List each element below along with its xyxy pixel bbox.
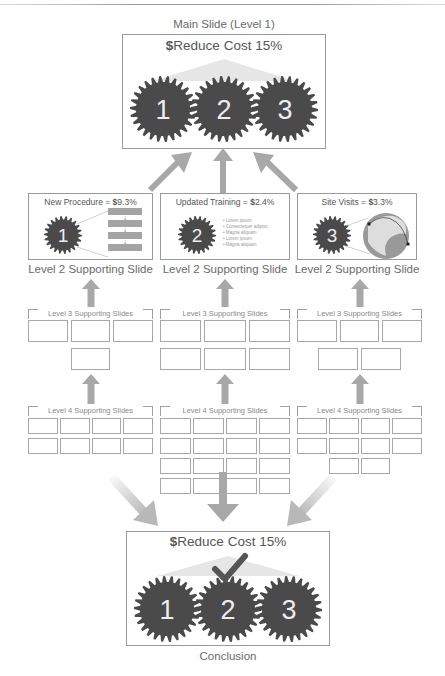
level3-slide-thumb[interactable] [249, 348, 290, 370]
top-rule [0, 4, 445, 5]
level4-slide-thumb[interactable] [92, 438, 122, 454]
level3-slide-thumb[interactable] [204, 320, 245, 342]
gear-icon-2: 2 [191, 76, 257, 142]
process-flow-icon: 1↓↓↓ [29, 194, 154, 259]
svg-text:1: 1 [155, 95, 170, 125]
level4-slide-thumb[interactable] [123, 418, 153, 434]
level2-caption: Level 2 Supporting Slide [155, 263, 295, 275]
level4-slide-thumb[interactable] [160, 418, 191, 434]
level4-slide-thumb[interactable] [193, 418, 224, 434]
arrows-to-main [0, 145, 445, 195]
up-arrow-icon [215, 279, 235, 307]
level4-slide-thumb[interactable] [361, 418, 391, 434]
level4-slide-thumb[interactable] [123, 438, 153, 454]
level4-slide-thumb[interactable] [226, 438, 257, 454]
level2-slide-2[interactable]: Updated Training = $2.4%2Lorem ipsumCons… [160, 193, 290, 260]
up-arrow-icon [215, 374, 235, 404]
level4-slide-thumb[interactable] [226, 418, 257, 434]
level4-slide-thumb[interactable] [329, 418, 359, 434]
level4-slide-thumb[interactable] [60, 438, 90, 454]
main-slide-caption: Main Slide (Level 1) [122, 18, 326, 30]
gear-icon-2: 2 [178, 216, 216, 254]
gear-icon-3: 3 [256, 576, 322, 642]
level4-slide-thumb[interactable] [259, 418, 290, 434]
svg-text:2: 2 [192, 225, 203, 246]
level4-slide-thumb[interactable] [92, 418, 122, 434]
up-arrow-icon [350, 279, 370, 307]
up-arrow-icon [81, 374, 101, 404]
level3-label: Level 3 Supporting Slides [38, 309, 143, 318]
level4-slide-thumb[interactable] [193, 438, 224, 454]
level4-slide-thumb[interactable] [361, 438, 391, 454]
level3-slide-thumb[interactable] [71, 348, 111, 370]
level3-label: Level 3 Supporting Slides [307, 309, 412, 318]
bullet-list: Lorem ipsumConsectetuer adipiscMagna ali… [223, 218, 268, 248]
level2-slide-3[interactable]: Site Visits = $3.3%3 [297, 193, 417, 260]
level4-slide-thumb[interactable] [329, 438, 359, 454]
level4-label: Level 4 Supporting Slides [307, 406, 412, 415]
gear-icon-1: 1 [44, 216, 82, 254]
level2-caption: Level 2 Supporting Slide [23, 263, 158, 275]
level4-slide-thumb[interactable] [28, 438, 58, 454]
main-slide[interactable]: $Reduce Cost 15% 123 [122, 34, 326, 149]
main-gears: 123 [123, 35, 325, 152]
gear-icon-3: 3 [313, 216, 351, 254]
level3-slide-thumb[interactable] [28, 320, 68, 342]
level4-slide-thumb[interactable] [259, 438, 290, 454]
gear-icon-1: 1 [134, 576, 200, 642]
level3-slide-thumb[interactable] [249, 320, 290, 342]
gear-icon-3: 3 [252, 76, 318, 142]
level4-slide-thumb[interactable] [60, 418, 90, 434]
level3-slide-thumb[interactable] [113, 320, 153, 342]
level3-slide-thumb[interactable] [204, 348, 245, 370]
svg-text:1: 1 [58, 225, 69, 246]
level3-slide-thumb[interactable] [361, 348, 401, 370]
level2-caption: Level 2 Supporting Slide [292, 263, 422, 275]
level4-slide-thumb[interactable] [28, 418, 58, 434]
level3-slide-thumb[interactable] [318, 348, 358, 370]
svg-text:3: 3 [327, 225, 338, 246]
level4-label: Level 4 Supporting Slides [38, 406, 143, 415]
level3-slide-thumb[interactable] [160, 348, 201, 370]
conclusion-caption: Conclusion [126, 650, 330, 662]
svg-text:2: 2 [220, 595, 235, 625]
level2-slide-1[interactable]: New Procedure = $9.3%1↓↓↓ [28, 193, 153, 260]
level4-label: Level 4 Supporting Slides [170, 406, 280, 415]
arrows-to-conclusion [0, 470, 445, 530]
svg-text:1: 1 [159, 595, 174, 625]
svg-text:2: 2 [216, 95, 231, 125]
gear-icon-2: 2 [195, 576, 261, 642]
svg-text:3: 3 [281, 595, 296, 625]
level3-slide-thumb[interactable] [382, 320, 422, 342]
conclusion-graphic: 123 [127, 532, 329, 645]
globe-icon: 3 [298, 194, 418, 259]
level3-label: Level 3 Supporting Slides [170, 309, 280, 318]
level4-slide-thumb[interactable] [160, 438, 191, 454]
level4-slide-thumb[interactable] [392, 418, 422, 434]
level4-slide-thumb[interactable] [297, 418, 327, 434]
level3-slide-thumb[interactable] [160, 320, 201, 342]
level4-slide-thumb[interactable] [392, 438, 422, 454]
level4-slide-thumb[interactable] [297, 438, 327, 454]
level3-slide-thumb[interactable] [340, 320, 380, 342]
level3-slide-thumb[interactable] [71, 320, 111, 342]
svg-text:3: 3 [277, 95, 292, 125]
up-arrow-icon [81, 279, 101, 307]
up-arrow-icon [350, 374, 370, 404]
level3-slide-thumb[interactable] [297, 320, 337, 342]
gear-icon-1: 1 [130, 76, 196, 142]
conclusion-slide[interactable]: $Reduce Cost 15% 123 [126, 531, 330, 646]
